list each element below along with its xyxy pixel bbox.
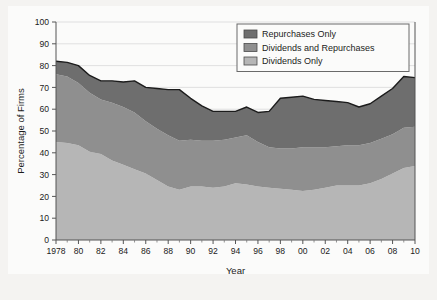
x-tick-label: 82 [96, 246, 106, 256]
x-tick-label: 96 [253, 246, 263, 256]
x-tick-label: 98 [276, 246, 286, 256]
x-tick-label: 90 [186, 246, 196, 256]
chart-legend: Repurchases OnlyDividends and Repurchase… [237, 24, 409, 72]
y-tick-label: 30 [39, 170, 49, 180]
y-tick-label: 20 [39, 192, 49, 202]
y-tick-label: 0 [44, 235, 49, 245]
x-tick-label: 84 [119, 246, 129, 256]
x-tick-label: 10 [410, 246, 420, 256]
legend-label: Repurchases Only [262, 29, 337, 39]
y-tick-label: 90 [39, 39, 49, 49]
legend-label: Dividends and Repurchases [262, 43, 375, 53]
x-tick-label: 04 [343, 246, 353, 256]
y-tick-label: 100 [35, 17, 50, 27]
x-tick-label: 08 [388, 246, 398, 256]
x-tick-label: 92 [208, 246, 218, 256]
x-tick-label: 80 [74, 246, 84, 256]
chart-figure: 0102030405060708090100 19788082848688909… [8, 6, 429, 274]
y-tick-label: 60 [39, 104, 49, 114]
legend-swatch [244, 44, 257, 52]
x-axis-title: Year [226, 265, 245, 274]
stacked-area-chart: 0102030405060708090100 19788082848688909… [8, 6, 429, 274]
y-tick-label: 50 [39, 126, 49, 136]
x-tick-label: 00 [298, 246, 308, 256]
x-tick-label: 86 [141, 246, 151, 256]
y-tick-label: 70 [39, 83, 49, 93]
legend-label: Dividends Only [262, 56, 323, 66]
x-tick-label: 06 [365, 246, 375, 256]
y-tick-label: 40 [39, 148, 49, 158]
legend-swatch [244, 30, 257, 38]
x-tick-label: 02 [320, 246, 330, 256]
x-tick-label: 94 [231, 246, 241, 256]
x-tick-label: 1978 [46, 246, 65, 256]
x-tick-label: 88 [163, 246, 173, 256]
page-root: 0102030405060708090100 19788082848688909… [0, 0, 437, 300]
legend-swatch [244, 57, 257, 65]
y-tick-label: 80 [39, 61, 49, 71]
y-tick-label: 10 [39, 213, 49, 223]
y-axis-title: Percentage of Firms [15, 88, 26, 174]
